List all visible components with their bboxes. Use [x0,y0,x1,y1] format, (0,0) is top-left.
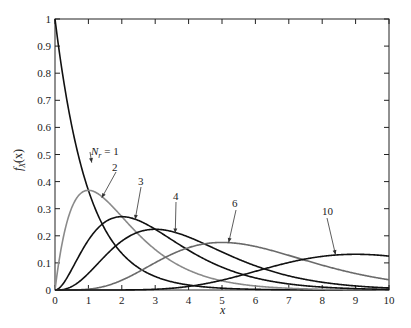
x-tick-label: 0 [52,294,58,306]
x-tick-label: 1 [86,294,92,306]
curve-n3 [55,217,389,290]
label-n3: 3 [138,175,144,187]
arrow-head-icon [89,158,93,163]
y-tick-label: 0.6 [37,121,51,133]
x-tick-label: 8 [319,294,325,306]
curve-n2 [55,190,389,290]
x-tick-label: 4 [186,294,192,306]
x-axis-label: x [219,303,226,317]
label-n4: 4 [173,190,179,202]
label-n1: Nr = 1 [90,145,119,160]
y-tick-label: 0.9 [37,40,51,52]
x-tick-label: 6 [253,294,259,306]
y-tick-label: 1 [46,13,52,25]
arrow-head-icon [333,250,337,255]
x-axis-ticks: 012345678910 [52,19,395,306]
y-tick-label: 0.2 [37,230,51,242]
y-tick-label: 0.1 [37,257,51,269]
x-tick-label: 2 [119,294,125,306]
x-tick-label: 3 [152,294,158,306]
curve-n6 [55,242,389,290]
x-tick-label: 7 [286,294,292,306]
y-axis-label: fX(x) [11,149,27,171]
label-n10: 10 [322,205,334,217]
label-arrows [89,152,336,255]
y-tick-label: 0 [46,284,52,296]
label-n6: 6 [232,197,238,209]
y-tick-label: 0.7 [37,94,51,106]
y-tick-label: 0.8 [37,67,51,79]
x-tick-label: 9 [353,294,359,306]
chart: 012345678910 00.10.20.30.40.50.60.70.80.… [0,0,411,328]
label-n2: 2 [112,161,118,173]
y-tick-label: 0.5 [37,149,51,161]
y-tick-label: 0.4 [37,176,51,188]
x-tick-label: 10 [384,294,396,306]
y-tick-label: 0.3 [37,203,51,215]
